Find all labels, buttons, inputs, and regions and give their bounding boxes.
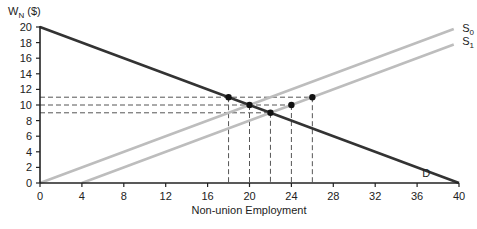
y-tick-label: 16 (20, 52, 32, 64)
y-tick-label: 10 (20, 99, 32, 111)
x-tick-label: 36 (411, 190, 423, 202)
y-tick-label: 6 (26, 130, 32, 142)
x-tick-label: 40 (453, 190, 465, 202)
x-tick-label: 12 (160, 190, 172, 202)
y-tick-label: 4 (26, 146, 32, 158)
data-point (267, 110, 273, 116)
x-tick-label: 0 (37, 190, 43, 202)
curve-label-sub: 0 (469, 28, 474, 37)
data-point (288, 102, 294, 108)
data-point (309, 94, 315, 100)
x-axis-title: Non-union Employment (192, 204, 307, 216)
y-tick-label: 2 (26, 161, 32, 173)
x-tick-label: 32 (369, 190, 381, 202)
y-tick-label: 14 (20, 68, 32, 80)
data-point (225, 94, 231, 100)
y-tick-label: 18 (20, 37, 32, 49)
x-tick-label: 4 (79, 190, 85, 202)
axes: 024681012141618200481216202428323640 (20, 21, 465, 202)
x-tick-label: 28 (327, 190, 339, 202)
x-tick-label: 20 (243, 190, 255, 202)
y-tick-label: 12 (20, 83, 32, 95)
y-axis-title-suffix: ($) (24, 5, 41, 17)
y-axis-title: WN ($) (8, 5, 41, 20)
data-point (246, 102, 252, 108)
x-tick-label: 24 (285, 190, 297, 202)
curve-label-main: D (422, 167, 430, 179)
chart: 024681012141618200481216202428323640 DS0… (0, 0, 477, 229)
x-tick-label: 16 (201, 190, 213, 202)
x-tick-label: 8 (121, 190, 127, 202)
curve-label-d: D (422, 167, 430, 179)
curve-label-main: S (462, 22, 469, 34)
y-axis-title-main: W (8, 5, 19, 17)
curve-label-main: S (462, 35, 469, 47)
y-tick-label: 0 (26, 177, 32, 189)
curve-label-s1: S1 (462, 35, 474, 50)
y-tick-label: 8 (26, 115, 32, 127)
curve-label-sub: 1 (469, 41, 474, 50)
y-tick-label: 20 (20, 21, 32, 33)
